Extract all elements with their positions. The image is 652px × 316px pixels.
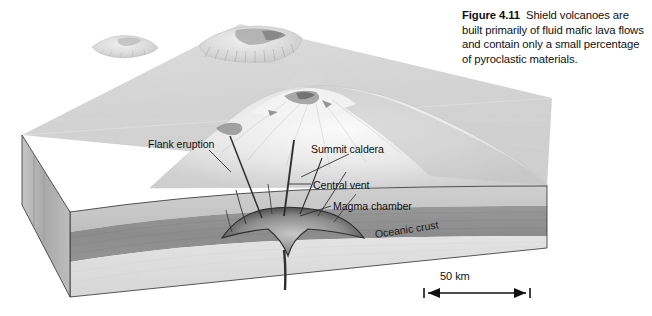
scale-bar — [424, 288, 530, 298]
figure-number: Figure 4.11 — [462, 9, 520, 21]
label-scale-bar: 50 km — [440, 270, 470, 282]
label-central-vent: Central vent — [313, 179, 370, 191]
label-magma-chamber: Magma chamber — [333, 200, 412, 212]
block-left-face — [22, 135, 70, 297]
label-flank-eruption: Flank eruption — [148, 138, 214, 150]
seamount-far-left — [92, 35, 158, 58]
figure-container: Figure 4.11 Shield volcanoes are built p… — [0, 0, 652, 316]
figure-caption: Figure 4.11 Shield volcanoes are built p… — [462, 8, 644, 66]
label-summit-caldera: Summit caldera — [311, 143, 384, 155]
block-front-face — [70, 186, 547, 297]
